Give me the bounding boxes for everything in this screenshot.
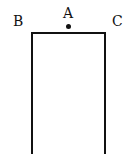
left-edge — [31, 32, 33, 154]
top-edge-bc — [31, 32, 106, 34]
label-b: B — [13, 14, 23, 28]
open-rectangle-diagram: B A C — [0, 0, 133, 156]
point-a-dot — [66, 24, 71, 29]
label-c: C — [112, 14, 123, 28]
right-edge — [104, 32, 106, 154]
label-a: A — [63, 6, 73, 20]
